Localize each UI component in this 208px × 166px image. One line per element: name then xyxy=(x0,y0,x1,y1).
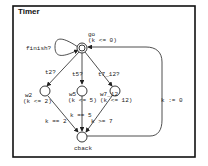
location-go-invariant: (k <= 0) xyxy=(88,37,117,44)
template-title: Timer xyxy=(18,7,40,16)
location-cback[interactable] xyxy=(77,132,87,142)
edge-label-k-eq-2: k == 2 xyxy=(45,118,67,125)
location-w2[interactable] xyxy=(40,86,50,96)
edge-label-finish: finish? xyxy=(26,45,52,52)
location-w712-invariant: (k <= 12) xyxy=(100,97,132,104)
edge-label-t2: t2? xyxy=(45,69,56,76)
location-go[interactable] xyxy=(77,43,87,53)
edge-label-k-eq-5: k == 5 xyxy=(70,112,92,119)
template-frame xyxy=(13,6,195,157)
location-w2-invariant: (k <= 2) xyxy=(23,98,52,105)
edge-label-t712: t7_12? xyxy=(98,71,120,78)
edge-label-reset: k := 0 xyxy=(161,97,183,104)
edge-label-t5: t5? xyxy=(72,71,83,78)
location-w5[interactable] xyxy=(77,86,87,96)
location-cback-name: cback xyxy=(74,145,92,152)
edge-label-k-ge-7: k >= 7 xyxy=(91,118,113,125)
timer-automaton-diagram: go (k <= 0) w2 (k <= 2) w5 (k <= 5) w7_1… xyxy=(0,0,208,166)
location-w5-invariant: (k <= 5) xyxy=(68,97,97,104)
